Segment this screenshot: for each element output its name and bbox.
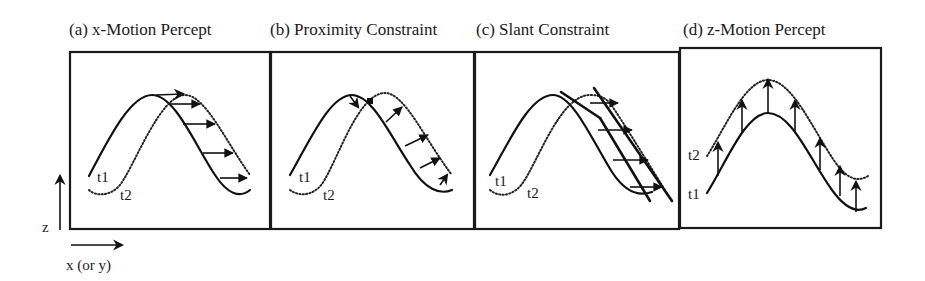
t2-curve [290, 93, 452, 194]
t2-curve [89, 95, 250, 194]
t2-label: t2 [120, 187, 132, 203]
t1-curve [707, 113, 866, 210]
panel-b-title: (b) Proximity Constraint [270, 20, 437, 39]
t1-curve [490, 95, 652, 194]
t1-label: t1 [688, 186, 700, 202]
t2-label: t2 [323, 187, 335, 203]
t2-curve [490, 95, 610, 195]
panel-a: t1 t2 [89, 94, 250, 203]
panel-a-frame [70, 52, 270, 229]
t1-label: t1 [495, 173, 507, 189]
z-axis-label: z [42, 219, 49, 235]
t1-curve [89, 95, 250, 194]
t1-label: t1 [299, 169, 311, 185]
t2-label: t2 [688, 147, 700, 163]
motion-arrow-icon [420, 158, 440, 168]
x-axis-label: x (or y) [66, 257, 111, 274]
axis-indicator: z x (or y) [42, 176, 122, 274]
t1-curve [290, 95, 452, 192]
panel-d-frame [680, 48, 881, 228]
motion-percept-diagram: (a) x-Motion Percept (b) Proximity Const… [0, 0, 925, 281]
motion-arrow-icon [350, 96, 358, 107]
motion-arrow-icon [405, 135, 428, 146]
panel-b: t1 t2 [290, 93, 452, 203]
panel-d-title: (d) z-Motion Percept [683, 20, 826, 39]
panel-c-title: (c) Slant Constraint [476, 20, 609, 39]
motion-arrow-icon [156, 94, 183, 95]
panel-c-frame [475, 52, 679, 229]
stationary-point-icon [367, 98, 373, 104]
t2-curve [707, 80, 868, 179]
panel-c: t1 t2 [490, 88, 672, 201]
panel-b-frame [271, 52, 474, 229]
panel-d: t2 t1 [688, 80, 868, 212]
slant-tangent-line [594, 88, 672, 201]
motion-arrow-icon [440, 175, 447, 185]
motion-arrow-icon [386, 107, 402, 122]
t1-label: t1 [97, 169, 109, 185]
panel-frames [70, 48, 881, 229]
panel-a-title: (a) x-Motion Percept [69, 20, 212, 39]
t2-label: t2 [527, 185, 539, 201]
